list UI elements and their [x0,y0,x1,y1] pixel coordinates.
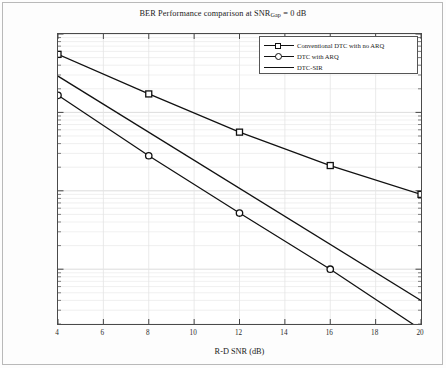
legend-item[interactable]: Conventional DTC with no ARQ [264,40,413,51]
chart-title: BER Performance comparison at SNRGap = 0… [0,9,446,18]
x-tick-label: 18 [365,329,385,337]
chart-title-main: BER Performance comparison at SNR [139,9,270,18]
legend-item-label: DTC with ARQ [294,53,339,60]
legend-marker-circle-icon [264,51,294,62]
legend-item[interactable]: DTC-SIR [264,62,413,73]
legend-marker-square-icon [264,40,294,51]
x-tick-label: 8 [138,329,158,337]
x-tick-label: 4 [47,329,67,337]
x-axis-label: R-D SNR (dB) [57,347,422,356]
x-tick-label: 12 [229,329,249,337]
legend-item-label: DTC-SIR [294,64,323,71]
plot-area [57,33,422,325]
x-tick-label: 6 [92,329,112,337]
x-tick-label: 16 [319,329,339,337]
legend-box: Conventional DTC with no ARQ DTC with AR… [259,36,418,74]
chart-title-subscript: Gap [270,11,281,18]
figure-container: BER Performance comparison at SNRGap = 0… [0,0,446,368]
x-tick-label: 10 [183,329,203,337]
plot-svg [58,34,421,324]
legend-marker-line-icon [264,62,294,73]
chart-title-tail: = 0 dB [281,9,306,18]
legend-item[interactable]: DTC with ARQ [264,51,413,62]
x-tick-label: 14 [274,329,294,337]
x-tick-label: 20 [410,329,430,337]
legend-item-label: Conventional DTC with no ARQ [294,42,384,49]
